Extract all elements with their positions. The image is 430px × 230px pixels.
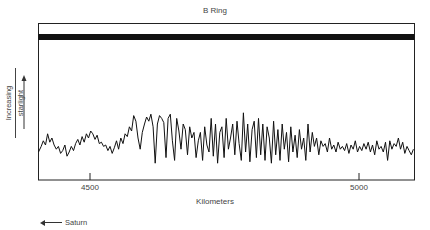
left-arrow-icon (42, 222, 62, 223)
plot-frame (39, 24, 415, 181)
ring-band (39, 34, 415, 40)
saturn-label: Saturn (65, 218, 87, 227)
y-axis-label-line1: Increasing (4, 68, 16, 138)
xtick-label-5000: 5000 (350, 183, 368, 192)
signal-line (39, 113, 414, 163)
y-axis-up-arrow-icon (20, 75, 28, 131)
plot-area (0, 0, 430, 230)
x-axis-label: Kilometers (0, 197, 430, 206)
xtick-label-4500: 4500 (81, 183, 99, 192)
saturn-direction-annotation: Saturn (42, 218, 87, 227)
